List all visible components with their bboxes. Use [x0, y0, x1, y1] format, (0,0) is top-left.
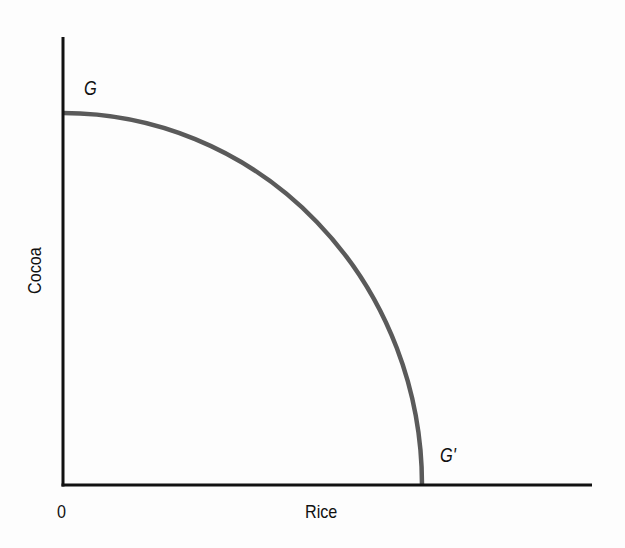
- origin-label: 0: [57, 502, 66, 521]
- ppf-diagram: G G' Cocoa 0 Rice: [0, 0, 625, 548]
- point-label-g: G: [84, 78, 97, 98]
- point-label-g-prime: G': [440, 445, 456, 465]
- y-axis-title: Cocoa: [25, 247, 44, 294]
- x-axis-title: Rice: [305, 502, 337, 521]
- frontier-curve: [63, 113, 422, 485]
